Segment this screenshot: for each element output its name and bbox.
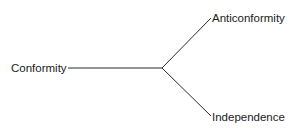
- node-label-anticonformity: Anticonformity: [212, 11, 285, 25]
- edge-branch-to-independence: [162, 68, 211, 116]
- branching-diagram: Conformity Anticonformity Independence: [0, 0, 297, 128]
- node-label-independence: Independence: [212, 110, 285, 124]
- node-label-conformity: Conformity: [11, 61, 67, 75]
- edge-branch-to-anticonformity: [162, 18, 211, 68]
